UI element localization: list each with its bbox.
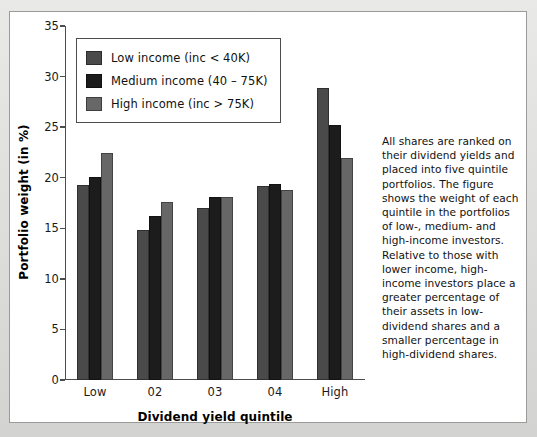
bar[interactable] <box>317 88 329 380</box>
y-tick-label: 5 <box>19 322 59 336</box>
x-tick-label: 03 <box>185 385 245 399</box>
bar[interactable] <box>149 216 161 380</box>
y-tick-label: 10 <box>19 272 59 286</box>
bar[interactable] <box>209 197 221 380</box>
figure-caption: All shares are ranked on their dividend … <box>382 134 522 361</box>
bar[interactable] <box>269 184 281 380</box>
y-tick-label: 25 <box>19 120 59 134</box>
y-axis-title: Portfolio weight (in %) <box>17 124 31 279</box>
chart-legend: Low income (inc < 40K)Medium income (40 … <box>76 38 281 123</box>
legend-item[interactable]: Medium income (40 – 75K) <box>86 69 268 92</box>
x-tick-label: 04 <box>245 385 305 399</box>
bar[interactable] <box>329 125 341 380</box>
bar[interactable] <box>77 185 89 380</box>
y-tick-label: 35 <box>19 19 59 33</box>
y-tick-label: 15 <box>19 221 59 235</box>
bar[interactable] <box>197 208 209 380</box>
bar[interactable] <box>221 197 233 380</box>
y-tick-label: 0 <box>19 373 59 387</box>
x-tick-label: High <box>305 385 365 399</box>
legend-label: Medium income (40 – 75K) <box>111 74 268 88</box>
x-axis-title: Dividend yield quintile <box>65 410 365 424</box>
plot-area: Portfolio weight (in %) 05101520253035 L… <box>65 26 365 391</box>
bar[interactable] <box>161 202 173 380</box>
x-tick-label: 02 <box>125 385 185 399</box>
chart-panel: Portfolio weight (in %) 05101520253035 L… <box>9 11 527 423</box>
legend-item[interactable]: High income (inc > 75K) <box>86 92 268 115</box>
legend-item[interactable]: Low income (inc < 40K) <box>86 46 268 69</box>
legend-swatch <box>86 74 102 88</box>
bar[interactable] <box>257 186 269 380</box>
legend-swatch <box>86 51 102 65</box>
legend-label: High income (inc > 75K) <box>111 97 254 111</box>
bar[interactable] <box>137 230 149 380</box>
bar[interactable] <box>281 190 293 380</box>
bar[interactable] <box>341 158 353 381</box>
legend-swatch <box>86 97 102 111</box>
bar-group <box>317 26 353 380</box>
y-tick-label: 30 <box>19 70 59 84</box>
bar[interactable] <box>101 153 113 380</box>
figure-container: Portfolio weight (in %) 05101520253035 L… <box>0 0 537 437</box>
legend-label: Low income (inc < 40K) <box>111 51 250 65</box>
bar[interactable] <box>89 177 101 380</box>
x-tick-label: Low <box>65 385 125 399</box>
y-tick-label: 20 <box>19 171 59 185</box>
